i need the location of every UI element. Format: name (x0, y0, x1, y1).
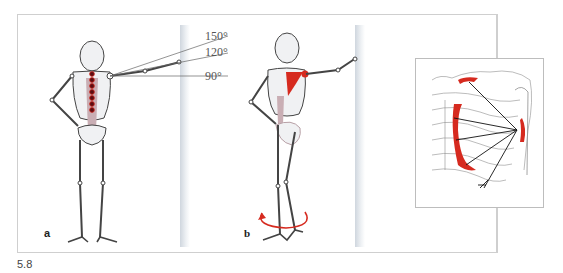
figure-number: 5.8 (17, 258, 32, 270)
angle-label-90: 90° (205, 69, 222, 84)
figure-b (249, 33, 357, 240)
diagram-svg (0, 0, 563, 273)
inset-muscle (453, 77, 525, 170)
panel-label-a: a (44, 227, 50, 239)
inset-force-lines (454, 82, 517, 188)
angle-label-120: 120° (205, 45, 228, 60)
figure-a (50, 36, 228, 242)
inset-anatomy (432, 71, 532, 181)
angle-label-150: 150° (205, 29, 228, 44)
panel-label-b: b (244, 227, 250, 239)
